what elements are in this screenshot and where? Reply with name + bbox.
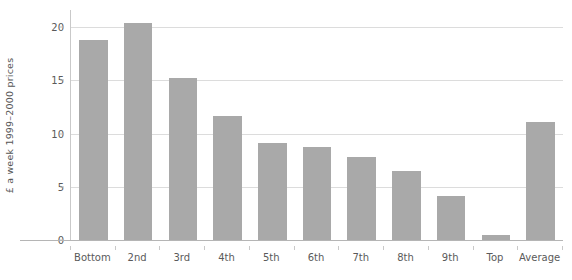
y-axis-title-text: £ a week 1999–2000 prices bbox=[5, 57, 16, 193]
bar-average bbox=[526, 122, 555, 240]
x-axis-tick-label: 5th bbox=[263, 252, 280, 263]
x-axis-tick-label: 9th bbox=[442, 252, 459, 263]
x-axis-tick-mark bbox=[383, 246, 384, 250]
x-axis-tick-label: 2nd bbox=[128, 252, 147, 263]
x-axis-tick-mark bbox=[517, 246, 518, 250]
x-axis-tick-label: Top bbox=[486, 252, 503, 263]
x-axis-tick-label: 4th bbox=[218, 252, 235, 263]
x-axis-tick-label: 8th bbox=[397, 252, 414, 263]
x-axis-tick-mark bbox=[70, 246, 71, 250]
bar-4th bbox=[213, 116, 242, 240]
bar-3rd bbox=[169, 78, 198, 240]
y-axis-tick-label: 10 bbox=[24, 128, 64, 139]
y-axis-tick-labels: 05101520 bbox=[20, 0, 64, 280]
x-axis-tick-mark bbox=[562, 246, 563, 250]
x-axis-tick-label: Bottom bbox=[74, 252, 111, 263]
x-axis-tick-mark bbox=[473, 246, 474, 250]
bar-6th bbox=[303, 147, 332, 240]
y-axis-tick-label: 5 bbox=[24, 181, 64, 192]
bar-8th bbox=[392, 171, 421, 240]
y-axis-tick-mark bbox=[60, 133, 64, 134]
x-axis-tick-label: 6th bbox=[308, 252, 325, 263]
plot-area bbox=[70, 10, 563, 240]
x-axis-line bbox=[20, 240, 562, 241]
y-axis-tick-label: 20 bbox=[24, 22, 64, 33]
x-axis-tick-mark bbox=[428, 246, 429, 250]
bar-chart: £ a week 1999–2000 prices 05101520 Botto… bbox=[0, 0, 572, 280]
x-axis-tick-label: 3rd bbox=[173, 252, 190, 263]
x-axis-tick-label: Average bbox=[519, 252, 560, 263]
bar-bottom bbox=[79, 40, 108, 240]
y-axis-tick-mark bbox=[60, 80, 64, 81]
bar-7th bbox=[347, 157, 376, 240]
bar-9th bbox=[437, 196, 466, 240]
bars bbox=[71, 10, 563, 240]
x-axis-tick-mark bbox=[249, 246, 250, 250]
x-axis-tick-mark bbox=[204, 246, 205, 250]
x-axis-tick-mark bbox=[159, 246, 160, 250]
x-axis-tick-label: 7th bbox=[352, 252, 369, 263]
x-axis-tick-mark bbox=[338, 246, 339, 250]
x-axis-tick-mark bbox=[294, 246, 295, 250]
bar-2nd bbox=[124, 23, 153, 240]
x-axis-tick-mark bbox=[115, 246, 116, 250]
bar-5th bbox=[258, 143, 287, 240]
y-axis-title: £ a week 1999–2000 prices bbox=[0, 0, 20, 250]
y-axis-tick-label: 15 bbox=[24, 75, 64, 86]
y-axis-tick-mark bbox=[60, 27, 64, 28]
x-axis-tick-labels: Bottom2nd3rd4th5th6th7th8th9thTopAverage bbox=[70, 246, 562, 268]
y-axis-tick-mark bbox=[60, 186, 64, 187]
